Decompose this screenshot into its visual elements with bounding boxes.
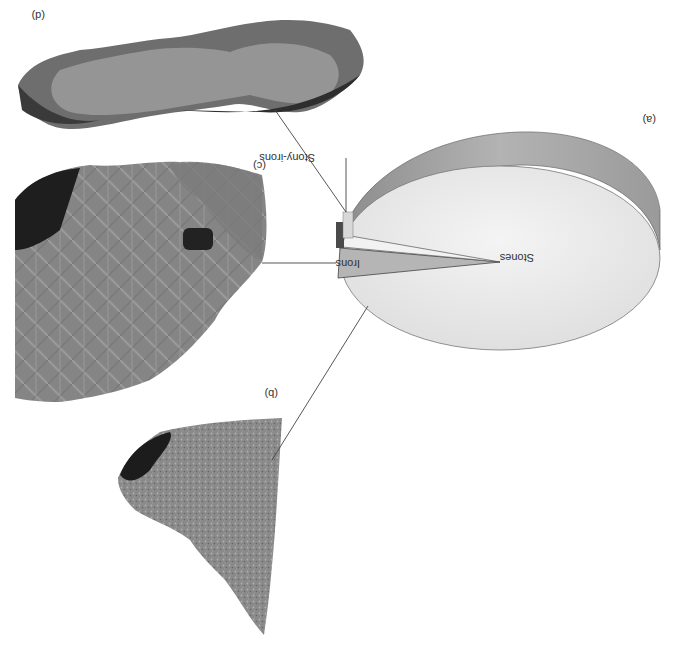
specimen-b-stone: [118, 418, 282, 635]
specimen-d-stony-iron: [18, 20, 364, 129]
figure: (d) (c) (b) Stones Irons Stony-irons (a): [0, 0, 675, 662]
panel-a-label: (a): [643, 114, 656, 126]
specimen-c-iron: [15, 162, 267, 402]
panel-b-label: (b): [265, 388, 278, 400]
label-stony-irons: Stony-irons: [259, 152, 315, 164]
leader-stones-to-b: [272, 306, 368, 460]
label-irons: Irons: [335, 258, 360, 270]
label-stones: Stones: [499, 252, 534, 264]
panel-d-label: (d): [32, 10, 45, 22]
pie-chart: [336, 132, 660, 350]
